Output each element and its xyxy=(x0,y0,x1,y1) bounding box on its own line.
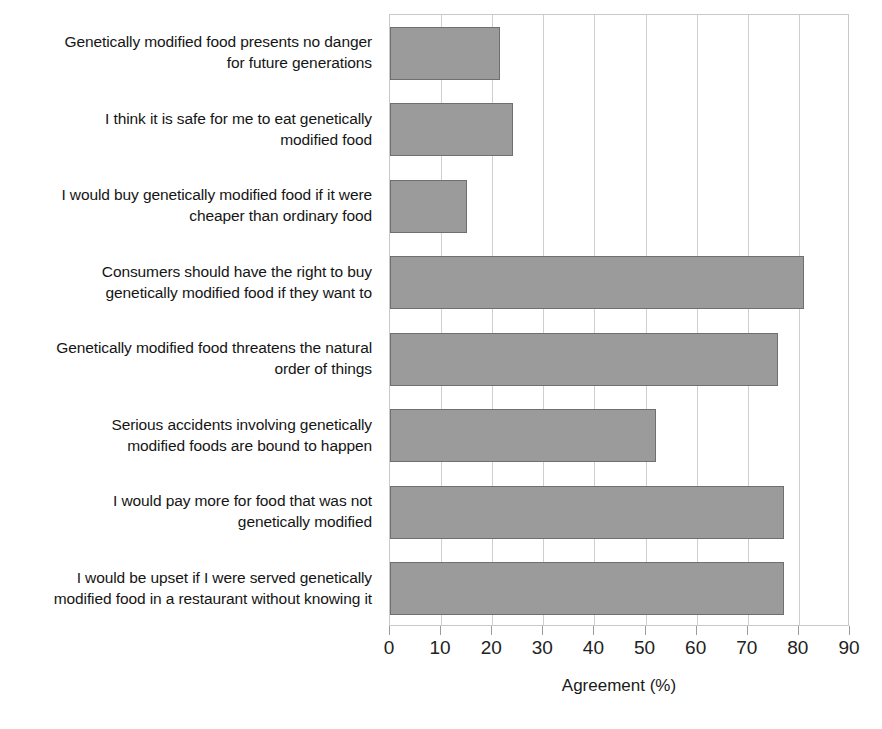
category-label-line: Consumers should have the right to buy xyxy=(0,261,372,282)
category-label: I would pay more for food that was notge… xyxy=(0,490,372,532)
category-label-line: I would pay more for food that was not xyxy=(0,490,372,511)
x-axis: 0102030405060708090 xyxy=(389,626,849,666)
x-tick-mark xyxy=(747,626,748,635)
plot-area xyxy=(389,14,849,626)
bar xyxy=(390,333,778,386)
category-label: Genetically modified food threatens the … xyxy=(0,337,372,379)
category-label-line: for future generations xyxy=(0,52,372,73)
bar xyxy=(390,486,784,539)
bars-container xyxy=(390,15,848,625)
category-label: Genetically modified food presents no da… xyxy=(0,31,372,73)
x-tick-mark xyxy=(798,626,799,635)
x-tick-label: 10 xyxy=(420,637,460,659)
category-label-line: Serious accidents involving genetically xyxy=(0,414,372,435)
x-tick-mark xyxy=(645,626,646,635)
category-axis-labels: Genetically modified food presents no da… xyxy=(0,14,380,626)
x-tick-label: 20 xyxy=(471,637,511,659)
category-label-line: I think it is safe for me to eat genetic… xyxy=(0,108,372,129)
category-label: I would be upset if I were served geneti… xyxy=(0,567,372,609)
x-tick-label: 40 xyxy=(573,637,613,659)
x-tick-mark xyxy=(849,626,850,635)
x-tick-mark xyxy=(696,626,697,635)
category-label: I think it is safe for me to eat genetic… xyxy=(0,108,372,150)
bar xyxy=(390,103,513,156)
bar xyxy=(390,562,784,615)
x-tick-label: 70 xyxy=(727,637,767,659)
x-tick-mark xyxy=(491,626,492,635)
x-tick-label: 80 xyxy=(778,637,818,659)
category-label-line: cheaper than ordinary food xyxy=(0,205,372,226)
category-label-line: I would be upset if I were served geneti… xyxy=(0,567,372,588)
x-tick-mark xyxy=(542,626,543,635)
category-label-line: modified foods are bound to happen xyxy=(0,435,372,456)
bar xyxy=(390,256,804,309)
category-label-line: modified food in a restaurant without kn… xyxy=(0,588,372,609)
category-label-line: genetically modified xyxy=(0,511,372,532)
category-label-line: Genetically modified food presents no da… xyxy=(0,31,372,52)
bar xyxy=(390,180,467,233)
x-tick-label: 60 xyxy=(676,637,716,659)
category-label-line: genetically modified food if they want t… xyxy=(0,282,372,303)
category-label-line: I would buy genetically modified food if… xyxy=(0,184,372,205)
x-tick-label: 50 xyxy=(625,637,665,659)
category-label: Consumers should have the right to buyge… xyxy=(0,261,372,303)
x-tick-mark xyxy=(593,626,594,635)
bar xyxy=(390,409,656,462)
bar-chart-figure: Genetically modified food presents no da… xyxy=(0,0,882,729)
x-tick-label: 0 xyxy=(369,637,409,659)
category-label-line: Genetically modified food threatens the … xyxy=(0,337,372,358)
x-tick-mark xyxy=(440,626,441,635)
category-label: Serious accidents involving geneticallym… xyxy=(0,414,372,456)
x-tick-mark xyxy=(389,626,390,635)
x-axis-title: Agreement (%) xyxy=(389,676,849,696)
category-label-line: modified food xyxy=(0,129,372,150)
category-label: I would buy genetically modified food if… xyxy=(0,184,372,226)
category-label-line: order of things xyxy=(0,358,372,379)
x-tick-label: 30 xyxy=(522,637,562,659)
bar xyxy=(390,27,500,80)
x-tick-label: 90 xyxy=(829,637,869,659)
